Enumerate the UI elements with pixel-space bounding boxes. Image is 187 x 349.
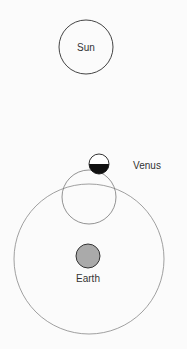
venus-orbit [62,170,116,224]
venus-label: Venus [133,160,161,171]
earth-planet [76,244,100,268]
earth-label: Earth [76,273,100,284]
sun-label: Sun [77,42,95,53]
venus-planet [89,154,109,174]
